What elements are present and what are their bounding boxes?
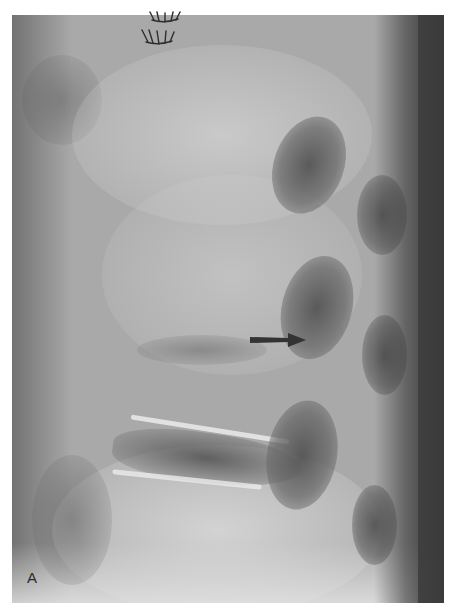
intervertebral-disc-space bbox=[110, 422, 305, 495]
posterior-soft-tissue bbox=[374, 15, 444, 603]
neural-foramen-3 bbox=[258, 395, 346, 515]
left-soft-tissue bbox=[12, 15, 72, 603]
surgical-staples-icon bbox=[138, 0, 188, 46]
radiograph-image bbox=[12, 15, 444, 603]
lower-vertebral-body bbox=[52, 445, 382, 603]
neural-foramen-1 bbox=[259, 106, 359, 224]
arrow-pointer-icon bbox=[248, 332, 308, 348]
film-edge-dark bbox=[418, 15, 444, 603]
vertebral-endplate-inferior bbox=[112, 469, 262, 490]
posterior-element-shadow-2 bbox=[362, 315, 407, 395]
posterior-element-shadow-3 bbox=[352, 485, 397, 565]
sacral-region bbox=[12, 543, 444, 603]
neural-foramen-2 bbox=[270, 248, 365, 368]
panel-label: A bbox=[27, 569, 37, 586]
vertebral-endplate-superior bbox=[131, 415, 290, 445]
soft-tissue-shadow-lower bbox=[32, 455, 112, 585]
soft-tissue-shadow bbox=[22, 55, 102, 145]
posterior-element-shadow-1 bbox=[357, 175, 407, 255]
upper-vertebral-body bbox=[72, 45, 372, 225]
middle-vertebral-body bbox=[102, 175, 362, 375]
